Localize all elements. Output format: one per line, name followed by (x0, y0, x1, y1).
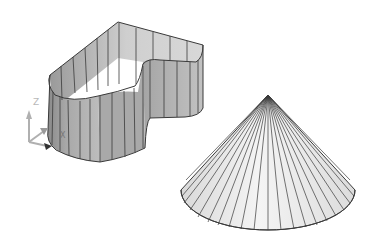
z-axis-arrow-icon (26, 110, 32, 119)
scene (0, 0, 370, 250)
front-middle-wall (98, 62, 145, 162)
cone[interactable] (181, 95, 355, 230)
x-axis-label: X (60, 131, 65, 140)
3d-viewport[interactable]: Z X (0, 0, 370, 250)
x-axis (29, 131, 44, 142)
z-axis-label: Z (33, 97, 39, 107)
extruded-shape[interactable] (48, 22, 203, 162)
